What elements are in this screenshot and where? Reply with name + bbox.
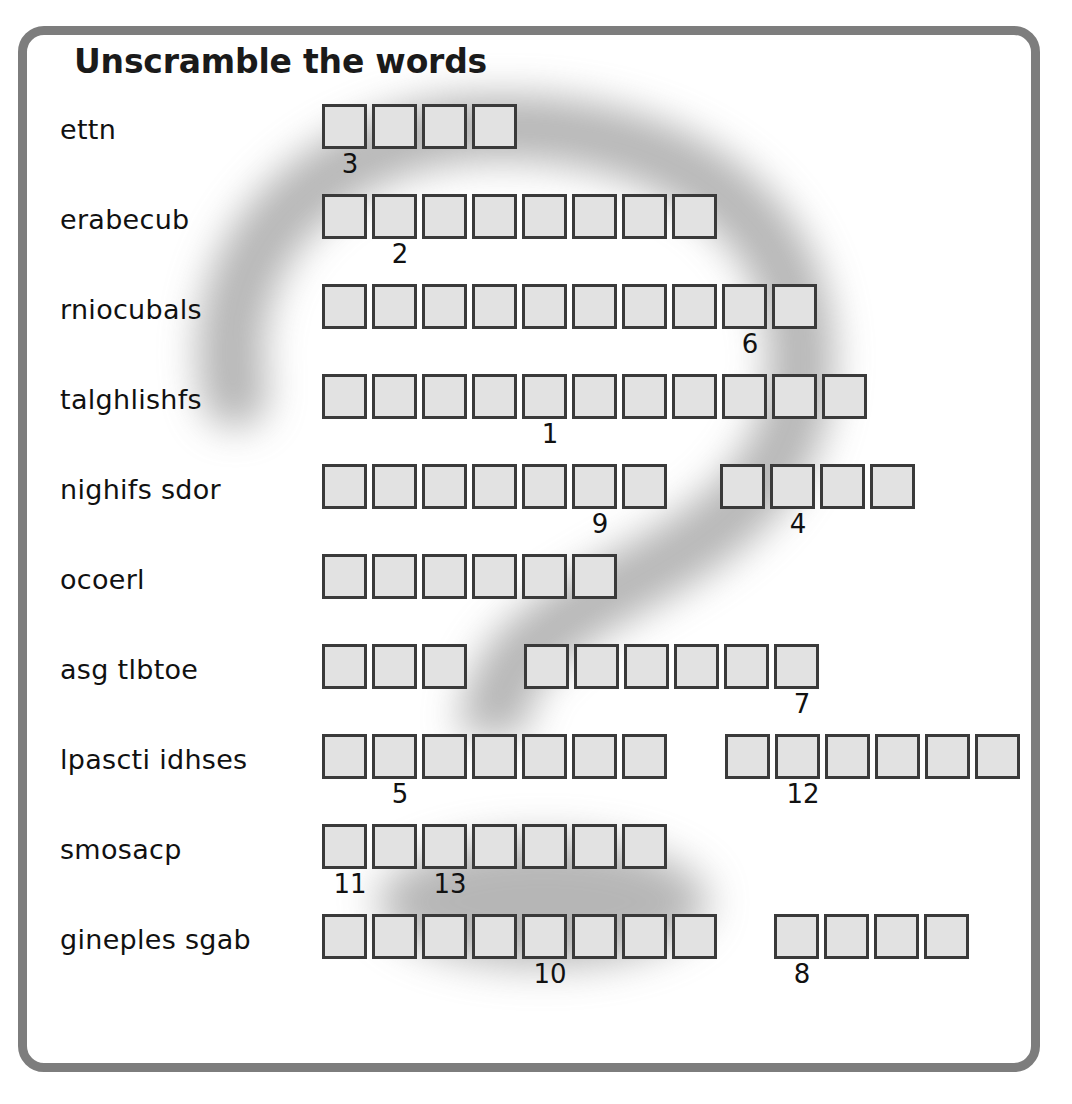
word-row: lpascti idhses512 [0, 726, 1072, 816]
answer-box-groups: 108 [322, 914, 974, 959]
answer-box[interactable] [422, 554, 467, 599]
answer-box[interactable]: 4 [770, 464, 815, 509]
answer-box[interactable] [422, 374, 467, 419]
answer-box[interactable] [820, 464, 865, 509]
answer-box[interactable]: 12 [775, 734, 820, 779]
clue-number: 12 [780, 781, 826, 807]
answer-box[interactable] [574, 644, 619, 689]
answer-box[interactable] [524, 644, 569, 689]
answer-box[interactable] [674, 644, 719, 689]
answer-box[interactable] [522, 734, 567, 779]
answer-box[interactable] [372, 824, 417, 869]
answer-box[interactable] [422, 284, 467, 329]
answer-box[interactable] [422, 914, 467, 959]
answer-box[interactable] [924, 914, 969, 959]
answer-box[interactable] [372, 374, 417, 419]
answer-box[interactable] [322, 554, 367, 599]
answer-box[interactable]: 8 [774, 914, 819, 959]
answer-box-group: 5 [322, 734, 672, 779]
answer-box[interactable] [322, 734, 367, 779]
answer-box[interactable] [622, 194, 667, 239]
answer-box[interactable]: 6 [722, 284, 767, 329]
answer-box[interactable] [622, 284, 667, 329]
scrambled-word-label: ocoerl [60, 564, 145, 595]
answer-box[interactable] [672, 374, 717, 419]
answer-box[interactable] [472, 734, 517, 779]
answer-box[interactable] [975, 734, 1020, 779]
answer-box[interactable] [622, 464, 667, 509]
answer-box[interactable] [572, 554, 617, 599]
answer-box[interactable] [322, 914, 367, 959]
answer-box[interactable] [874, 914, 919, 959]
answer-box[interactable] [572, 374, 617, 419]
answer-box[interactable] [522, 284, 567, 329]
answer-box[interactable] [720, 464, 765, 509]
answer-box[interactable] [472, 464, 517, 509]
answer-box[interactable] [572, 284, 617, 329]
answer-box[interactable]: 2 [372, 194, 417, 239]
answer-box[interactable] [672, 914, 717, 959]
answer-box[interactable] [322, 644, 367, 689]
answer-box[interactable] [522, 554, 567, 599]
answer-box[interactable] [622, 374, 667, 419]
answer-box[interactable] [572, 914, 617, 959]
answer-box[interactable] [624, 644, 669, 689]
answer-box[interactable] [822, 374, 867, 419]
answer-box[interactable] [572, 194, 617, 239]
answer-box[interactable] [422, 644, 467, 689]
answer-box[interactable] [472, 374, 517, 419]
answer-box[interactable]: 3 [322, 104, 367, 149]
answer-box[interactable] [522, 464, 567, 509]
answer-box[interactable] [622, 734, 667, 779]
clue-number: 8 [779, 961, 825, 987]
answer-box[interactable] [622, 824, 667, 869]
answer-box[interactable] [372, 554, 417, 599]
answer-box[interactable] [322, 464, 367, 509]
answer-box[interactable] [772, 374, 817, 419]
answer-box[interactable] [372, 284, 417, 329]
answer-box[interactable]: 10 [522, 914, 567, 959]
answer-box[interactable] [672, 194, 717, 239]
answer-box[interactable] [322, 374, 367, 419]
answer-box[interactable] [572, 824, 617, 869]
answer-box[interactable] [472, 824, 517, 869]
answer-box[interactable] [772, 284, 817, 329]
answer-box[interactable] [622, 914, 667, 959]
answer-box[interactable] [472, 104, 517, 149]
answer-box[interactable] [725, 734, 770, 779]
answer-box[interactable] [372, 644, 417, 689]
answer-box[interactable] [522, 824, 567, 869]
answer-box[interactable] [672, 284, 717, 329]
answer-box[interactable] [472, 554, 517, 599]
answer-box[interactable] [870, 464, 915, 509]
answer-box[interactable] [422, 194, 467, 239]
answer-box[interactable] [825, 734, 870, 779]
answer-box[interactable]: 9 [572, 464, 617, 509]
answer-box[interactable] [875, 734, 920, 779]
answer-box[interactable] [472, 284, 517, 329]
answer-box[interactable]: 11 [322, 824, 367, 869]
answer-box[interactable] [572, 734, 617, 779]
answer-box-group: 2 [322, 194, 722, 239]
answer-box[interactable] [824, 914, 869, 959]
answer-box[interactable] [472, 194, 517, 239]
answer-box[interactable] [724, 644, 769, 689]
answer-box[interactable] [925, 734, 970, 779]
answer-box[interactable] [372, 464, 417, 509]
answer-box[interactable]: 7 [774, 644, 819, 689]
answer-box[interactable] [372, 104, 417, 149]
answer-box[interactable] [372, 914, 417, 959]
answer-box[interactable]: 13 [422, 824, 467, 869]
answer-box[interactable] [472, 914, 517, 959]
answer-box[interactable] [722, 374, 767, 419]
answer-box[interactable] [522, 194, 567, 239]
answer-box[interactable] [422, 464, 467, 509]
answer-box[interactable] [322, 284, 367, 329]
answer-box[interactable] [322, 194, 367, 239]
answer-box[interactable]: 5 [372, 734, 417, 779]
answer-box[interactable] [422, 104, 467, 149]
answer-box[interactable]: 1 [522, 374, 567, 419]
word-row: gineples sgab108 [0, 906, 1072, 996]
answer-box[interactable] [422, 734, 467, 779]
scrambled-word-label: rniocubals [60, 294, 202, 325]
